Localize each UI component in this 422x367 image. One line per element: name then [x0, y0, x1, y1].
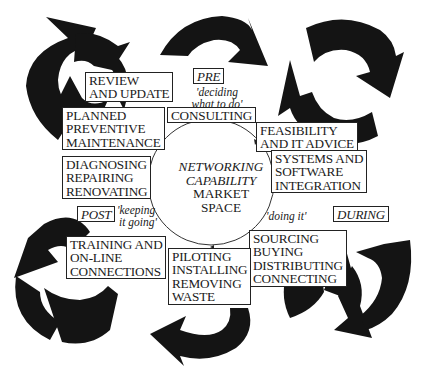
- phase-during-text: DURING: [337, 208, 385, 221]
- feasibility-line-1: FEASIBILITY: [260, 124, 354, 137]
- phase-during-note: 'doing it': [266, 211, 306, 223]
- sourcing-line-3: DISTRIBUTING: [253, 259, 343, 272]
- pre-note-line-1: 'deciding: [184, 87, 250, 99]
- phase-during-label: DURING: [333, 206, 389, 222]
- phase-post-label: POST: [77, 206, 115, 222]
- activity-systems: SYSTEMS AND SOFTWARE INTEGRATION: [271, 150, 367, 193]
- training-line-3: CONNECTIONS: [70, 265, 162, 278]
- center-line-3: MARKET: [171, 187, 271, 201]
- piloting-line-3: REMOVING: [172, 277, 247, 290]
- review-line-1: REVIEW: [89, 74, 169, 87]
- activity-diagnosing: DIAGNOSING REPAIRING RENOVATING: [62, 156, 151, 199]
- center-line-1: NETWORKING: [171, 160, 271, 174]
- center-title: NETWORKING CAPABILITY MARKET SPACE: [171, 160, 271, 214]
- piloting-line-2: INSTALLING: [172, 263, 247, 276]
- sourcing-line-2: BUYING: [253, 245, 343, 258]
- during-note-line-1: 'doing it': [266, 211, 306, 223]
- planned-line-3: MAINTENANCE: [66, 136, 161, 149]
- training-line-2: ON-LINE: [70, 251, 162, 264]
- feasibility-line-2: AND IT ADVICE: [260, 137, 354, 150]
- activity-piloting: PILOTING INSTALLING REMOVING WASTE: [168, 248, 251, 305]
- phase-post-note: 'keeping it going': [117, 205, 157, 228]
- activity-planned: PLANNED PREVENTIVE MAINTENANCE: [62, 107, 165, 150]
- activity-review: REVIEW AND UPDATE: [85, 72, 173, 102]
- consulting-line-1: CONSULTING: [171, 109, 252, 122]
- sourcing-line-4: CONNECTING: [253, 272, 343, 285]
- curved-arrow-icon-top-center: [160, 16, 268, 66]
- systems-line-2: SOFTWARE: [275, 165, 363, 178]
- post-note-line-2: it going': [117, 217, 157, 229]
- post-note-line-1: 'keeping: [117, 205, 157, 217]
- phase-post-text: POST: [81, 208, 111, 221]
- diagnosing-line-3: RENOVATING: [66, 185, 147, 198]
- diagnosing-line-2: REPAIRING: [66, 171, 147, 184]
- sourcing-line-1: SOURCING: [253, 232, 343, 245]
- piloting-line-1: PILOTING: [172, 250, 247, 263]
- center-line-4: SPACE: [171, 201, 271, 215]
- piloting-line-4: WASTE: [172, 290, 247, 303]
- phase-pre-label: PRE: [193, 68, 224, 84]
- curved-arrow-icon-bottom-center: [150, 308, 250, 366]
- activity-sourcing: SOURCING BUYING DISTRIBUTING CONNECTING: [249, 230, 347, 287]
- systems-line-3: INTEGRATION: [275, 179, 363, 192]
- systems-line-1: SYSTEMS AND: [275, 152, 363, 165]
- activity-training: TRAINING AND ON-LINE CONNECTIONS: [66, 236, 166, 279]
- review-line-2: AND UPDATE: [89, 87, 169, 100]
- planned-line-2: PREVENTIVE: [66, 122, 161, 135]
- center-line-2: CAPABILITY: [171, 174, 271, 188]
- diagnosing-line-1: DIAGNOSING: [66, 158, 147, 171]
- activity-consulting: CONSULTING: [167, 107, 256, 123]
- activity-feasibility: FEASIBILITY AND IT ADVICE: [256, 122, 358, 152]
- phase-pre-text: PRE: [197, 70, 220, 83]
- training-line-1: TRAINING AND: [70, 238, 162, 251]
- planned-line-1: PLANNED: [66, 109, 161, 122]
